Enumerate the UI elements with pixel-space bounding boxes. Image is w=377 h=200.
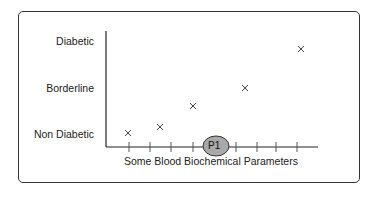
data-points	[125, 46, 304, 136]
diagram-plot	[0, 0, 377, 200]
p1-label: P1	[208, 140, 220, 151]
x-axis-label: Some Blood Biochemical Parameters	[124, 155, 298, 167]
